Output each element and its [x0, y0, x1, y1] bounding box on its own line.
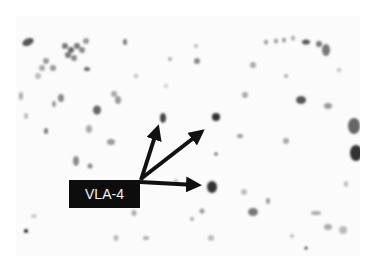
vla4-label: VLA-4: [69, 180, 140, 208]
arrows-overlay: [0, 0, 373, 266]
arrow-icons: [140, 130, 200, 185]
arrow-right-icon: [140, 182, 196, 185]
vla4-label-text: VLA-4: [85, 186, 124, 202]
